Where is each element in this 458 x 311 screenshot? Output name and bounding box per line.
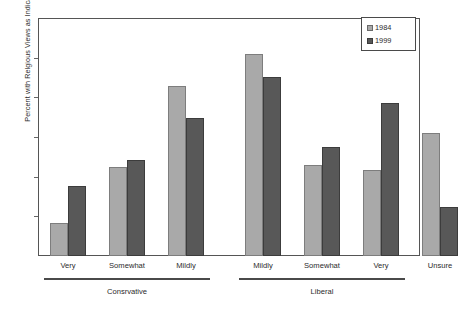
bar-group [50, 18, 86, 256]
x-tick-label: Somewhat [304, 261, 340, 270]
legend-label-1999: 1999 [375, 36, 391, 45]
bar [322, 147, 340, 256]
bar [440, 207, 458, 256]
bar-group [304, 18, 340, 256]
dark-gray-swatch-icon [367, 38, 373, 44]
bottom-caption-strip [6, 303, 426, 310]
bar [263, 77, 281, 256]
bar [363, 170, 381, 256]
bar [381, 103, 399, 256]
bar [304, 165, 322, 256]
bar [168, 86, 186, 256]
group-bracket-label: Consrvative [107, 287, 147, 296]
x-tick-label: Very [60, 261, 75, 270]
bar [422, 133, 440, 256]
bar-group [363, 18, 399, 256]
legend-item-1999: 1999 [367, 34, 415, 47]
group-bracket-line [239, 278, 405, 280]
x-axis-labels: VerySomewhatMildlyMildlySomewhatVeryUnsu… [38, 261, 420, 275]
bar-group [422, 18, 458, 256]
x-tick-label: Unsure [428, 261, 452, 270]
x-tick-label: Very [373, 261, 388, 270]
group-bracket-label: Liberal [311, 287, 334, 296]
legend: 1984 1999 [361, 17, 416, 51]
bar-group [245, 18, 281, 256]
bar [50, 223, 68, 256]
light-gray-swatch-icon [367, 25, 373, 31]
bar-group [168, 18, 204, 256]
bar [68, 186, 86, 256]
bar [245, 54, 263, 256]
legend-item-1984: 1984 [367, 21, 415, 34]
bar-series-container [38, 18, 420, 256]
x-tick-label: Mildly [253, 261, 272, 270]
legend-label-1984: 1984 [375, 23, 391, 32]
bar-group [109, 18, 145, 256]
group-bracket-line [44, 278, 210, 280]
bar [186, 118, 204, 256]
bar [127, 160, 145, 256]
x-tick-label: Somewhat [109, 261, 145, 270]
x-tick-label: Mildly [176, 261, 195, 270]
bar [109, 167, 127, 256]
